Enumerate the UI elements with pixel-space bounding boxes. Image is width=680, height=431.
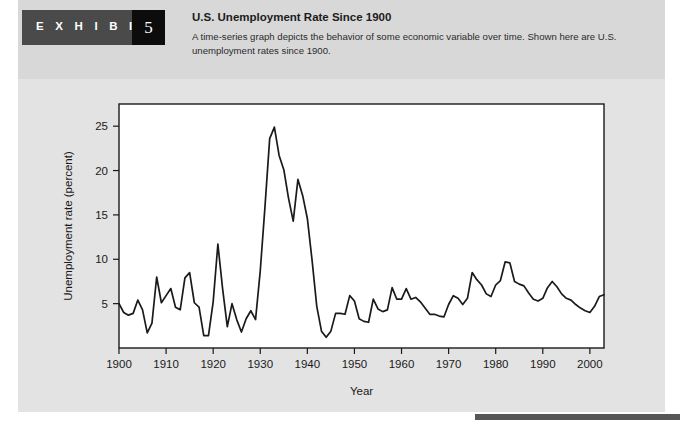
footer-rule xyxy=(475,414,680,420)
y-axis-label: Unemployment rate (percent) xyxy=(62,151,74,301)
chart-container: 5101520251900191019201930194019501960197… xyxy=(18,79,665,412)
exhibit-title: U.S. Unemployment Rate Since 1900 xyxy=(192,11,642,23)
x-tick-label: 1950 xyxy=(342,358,368,370)
x-tick-label: 1970 xyxy=(436,358,462,370)
y-tick-label: 5 xyxy=(102,298,108,310)
x-tick-label: 1990 xyxy=(530,358,556,370)
x-tick-label: 1930 xyxy=(247,358,273,370)
plot-background xyxy=(119,104,604,348)
x-tick-label: 1920 xyxy=(200,358,226,370)
exhibit-description: A time-series graph depicts the behavior… xyxy=(192,30,644,57)
y-tick-label: 15 xyxy=(95,209,108,221)
x-tick-label: 1960 xyxy=(389,358,415,370)
x-tick-label: 2000 xyxy=(577,358,603,370)
y-tick-label: 25 xyxy=(95,120,108,132)
x-axis-label: Year xyxy=(350,385,373,397)
x-tick-label: 1900 xyxy=(106,358,132,370)
exhibit-number-block: 5 xyxy=(132,10,165,45)
exhibit-number: 5 xyxy=(132,10,165,45)
y-tick-label: 10 xyxy=(95,253,108,265)
exhibit-page: E X H I B I T 5 U.S. Unemployment Rate S… xyxy=(0,0,680,431)
x-tick-label: 1910 xyxy=(153,358,179,370)
x-tick-label: 1940 xyxy=(295,358,321,370)
y-tick-label: 20 xyxy=(95,165,108,177)
unemployment-line-chart: 5101520251900191019201930194019501960197… xyxy=(18,79,665,412)
x-tick-label: 1980 xyxy=(483,358,509,370)
